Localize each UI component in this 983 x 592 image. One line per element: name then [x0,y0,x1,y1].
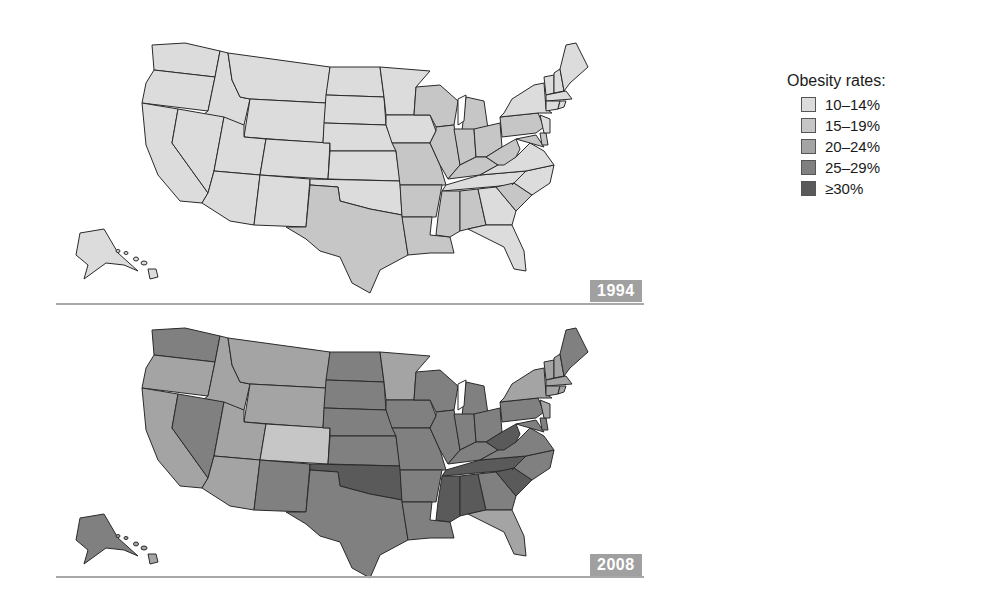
state-ak [76,514,138,564]
state-ar [400,185,442,217]
legend-swatch [801,160,816,175]
legend-label: ≥30% [825,180,863,197]
state-ne [323,408,396,436]
state-ny [500,368,552,402]
state-nj [540,400,550,418]
state-vt [544,360,554,380]
state-mt [228,338,330,388]
state-wy [244,384,326,428]
legend-swatch [801,181,816,196]
state-co [260,424,330,464]
state-me [560,43,588,91]
legend: Obesity rates: 10–14% 15–19% 20–24% 25–2… [787,72,886,199]
year-label-1994: 1994 [590,280,642,302]
legend-label: 25–29% [825,159,880,176]
state-ar [400,470,442,502]
legend-label: 10–14% [825,96,880,113]
state-sd [324,380,386,410]
map-panel-1994: 1994 [56,20,646,310]
legend-item-30-plus: ≥30% [787,178,886,199]
year-label-2008: 2008 [590,554,642,576]
state-fl [468,225,526,271]
state-ny [500,83,552,117]
state-de [540,418,548,430]
state-ia [386,115,436,143]
state-fl [468,510,526,556]
legend-swatch [801,139,816,154]
state-sd [324,95,386,125]
legend-item-25-29: 25–29% [787,157,886,178]
legend-swatch [801,97,816,112]
state-ne [323,123,396,151]
us-map-1994 [56,20,646,310]
legend-item-15-19: 15–19% [787,115,886,136]
state-nd [326,67,384,97]
state-wy [244,99,326,143]
legend-label: 15–19% [825,117,880,134]
legend-item-10-14: 10–14% [787,94,886,115]
state-nm [254,460,310,512]
state-co [260,139,330,179]
state-vt [544,75,554,95]
legend-label: 20–24% [825,138,880,155]
state-ct [546,101,560,111]
us-map-2008 [56,300,646,590]
state-ri [558,101,566,109]
state-nj [540,115,550,133]
map-panel-2008: 2008 [56,300,646,590]
state-ct [546,386,560,396]
state-ks [328,436,400,466]
state-ak [76,229,138,279]
state-ia [386,400,436,428]
state-mt [228,53,330,103]
state-nm [254,175,310,227]
legend-title: Obesity rates: [787,72,886,90]
state-ri [558,386,566,394]
state-nd [326,352,384,382]
legend-item-20-24: 20–24% [787,136,886,157]
legend-swatch [801,118,816,133]
state-de [540,133,548,145]
state-me [560,328,588,376]
state-ks [328,151,400,181]
divider-rule-2008 [56,576,644,578]
